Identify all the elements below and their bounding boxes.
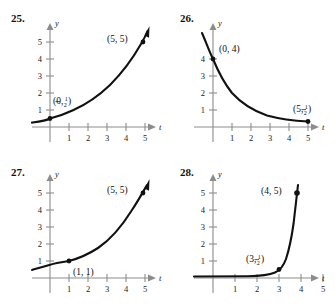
x-axis-arrowhead bbox=[148, 275, 156, 282]
x-tick-label-4: 4 bbox=[124, 284, 129, 294]
y-tick-label-1: 1 bbox=[201, 256, 205, 266]
y-tick-label-4: 4 bbox=[201, 54, 206, 64]
y-tick-label-1: 1 bbox=[201, 105, 205, 115]
graph-28: 1 2 3 4 5 1 2 3 4 5 t y (3,12) (4, 5) bbox=[168, 154, 336, 308]
data-point-5-5 bbox=[141, 191, 146, 196]
x-tick-label-4: 4 bbox=[299, 284, 304, 294]
y-axis-label: y bbox=[217, 18, 222, 28]
y-tick-label-2: 2 bbox=[201, 88, 205, 98]
y-tick-label-1: 1 bbox=[38, 256, 42, 266]
x-axis-label: t bbox=[322, 273, 325, 283]
data-point-5-half bbox=[306, 119, 311, 124]
x-axis-arrowhead bbox=[311, 275, 319, 282]
x-tick-label-1: 1 bbox=[67, 133, 71, 143]
x-tick-label-3: 3 bbox=[105, 133, 109, 143]
y-axis-label: y bbox=[217, 169, 222, 179]
y-tick-label-2: 2 bbox=[201, 239, 205, 249]
figure-panel-27: 27. 1 2 3 4 5 1 2 3 4 5 t bbox=[0, 154, 168, 308]
x-tick-label-2: 2 bbox=[86, 284, 90, 294]
y-axis-label: y bbox=[54, 169, 59, 179]
x-axis-arrowhead bbox=[148, 124, 156, 131]
x-tick-label-2: 2 bbox=[249, 133, 253, 143]
x-axis-arrowhead bbox=[311, 124, 319, 131]
y-tick-label-5: 5 bbox=[38, 188, 42, 198]
data-point-5-5 bbox=[141, 40, 146, 45]
x-tick-label-5: 5 bbox=[321, 284, 325, 294]
y-tick-label-4: 4 bbox=[38, 54, 43, 64]
x-axis-label: t bbox=[159, 273, 162, 283]
y-axis-label: y bbox=[54, 18, 59, 28]
graph-26: 1 2 3 4 5 1 2 3 4 t y (0, 4) (5,12) bbox=[168, 0, 336, 154]
y-axis-arrowhead bbox=[210, 174, 217, 181]
x-tick-label-5: 5 bbox=[306, 133, 310, 143]
x-tick-label-1: 1 bbox=[230, 133, 234, 143]
x-tick-label-4: 4 bbox=[124, 133, 129, 143]
point-label-5-5: (5, 5) bbox=[107, 34, 128, 45]
y-axis-arrowhead bbox=[47, 174, 54, 181]
y-tick-label-3: 3 bbox=[201, 222, 205, 232]
curve-25 bbox=[32, 31, 148, 123]
y-tick-label-4: 4 bbox=[38, 205, 43, 215]
figure-panel-25: 25. 1 2 3 4 5 1 bbox=[0, 0, 168, 154]
x-axis-label: t bbox=[322, 122, 325, 132]
x-tick-label-1: 1 bbox=[67, 284, 71, 294]
x-tick-label-4: 4 bbox=[287, 133, 292, 143]
y-tick-label-2: 2 bbox=[38, 239, 42, 249]
x-tick-label-2: 2 bbox=[86, 133, 90, 143]
x-tick-label-3: 3 bbox=[277, 284, 281, 294]
x-axis-label: t bbox=[159, 122, 162, 132]
graph-25: 1 2 3 4 5 1 2 3 4 5 t y (0,12) (5, 5 bbox=[0, 0, 168, 154]
figure-panel-28: 28. 1 2 3 4 5 1 2 3 4 5 t bbox=[168, 154, 336, 308]
y-tick-label-3: 3 bbox=[201, 71, 205, 81]
figure-sheet: 25. 1 2 3 4 5 1 bbox=[0, 0, 336, 308]
x-tick-label-3: 3 bbox=[105, 284, 109, 294]
point-label-4-5: (4, 5) bbox=[261, 186, 282, 197]
y-tick-label-3: 3 bbox=[38, 71, 42, 81]
figure-panel-26: 26. 1 2 3 4 5 1 2 3 4 t y bbox=[168, 0, 336, 154]
y-tick-label-5: 5 bbox=[38, 37, 42, 47]
graph-27: 1 2 3 4 5 1 2 3 4 5 t y (1, 1) (5, 5) bbox=[0, 154, 168, 308]
data-point-0-half bbox=[48, 116, 53, 121]
point-label-1-1: (1, 1) bbox=[73, 267, 94, 278]
x-tick-label-5: 5 bbox=[143, 284, 147, 294]
point-label-0-4: (0, 4) bbox=[219, 44, 240, 55]
y-axis-arrowhead bbox=[210, 23, 217, 30]
x-tick-label-1: 1 bbox=[233, 284, 237, 294]
y-tick-label-1: 1 bbox=[38, 105, 42, 115]
x-tick-label-3: 3 bbox=[268, 133, 272, 143]
y-axis-arrowhead bbox=[47, 23, 54, 30]
data-point-3-half bbox=[277, 267, 282, 272]
x-tick-label-2: 2 bbox=[255, 284, 259, 294]
data-point-4-5 bbox=[294, 190, 300, 196]
x-tick-label-5: 5 bbox=[143, 133, 147, 143]
y-tick-label-2: 2 bbox=[38, 88, 42, 98]
y-tick-label-5: 5 bbox=[201, 188, 205, 198]
data-point-0-4 bbox=[211, 57, 216, 62]
y-tick-label-3: 3 bbox=[38, 222, 42, 232]
y-tick-label-4: 4 bbox=[201, 205, 206, 215]
data-point-1-1 bbox=[67, 259, 72, 264]
point-label-5-5: (5, 5) bbox=[107, 185, 128, 196]
